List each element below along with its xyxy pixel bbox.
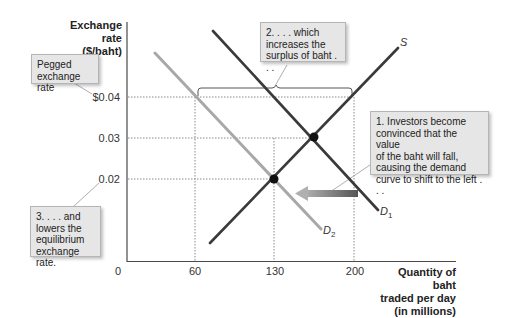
equilibrium-point-d1 bbox=[310, 133, 319, 142]
note3-line2: lowers the bbox=[36, 223, 95, 235]
x-axis-title-line2: traded per day bbox=[372, 292, 456, 305]
y-tick-0.03: 0.03 bbox=[80, 132, 120, 144]
x-tick-130: 130 bbox=[260, 265, 290, 277]
note3-line1: 3. . . . and bbox=[36, 211, 95, 223]
x-axis-title-line1: Quantity of baht bbox=[372, 266, 456, 292]
surplus-bracket bbox=[198, 85, 352, 96]
x-tick-200: 200 bbox=[340, 265, 370, 277]
note1-line1: 1. Investors become bbox=[376, 116, 483, 128]
x-tick-0: 0 bbox=[103, 265, 133, 277]
note2-line3: surplus of baht . . . bbox=[266, 50, 340, 73]
label-d1-letter: D bbox=[380, 205, 388, 217]
note-2-surplus: 2. . . . which increases the surplus of … bbox=[260, 22, 346, 62]
demand-curve-d2 bbox=[155, 53, 321, 229]
note1-line4: causing the demand bbox=[376, 162, 483, 174]
y-tick-0.02: 0.02 bbox=[80, 173, 120, 185]
x-axis-title-line3: (in millions) bbox=[372, 305, 456, 318]
note3-line4: exchange rate. bbox=[36, 246, 95, 269]
guide-lines bbox=[128, 97, 354, 261]
note2-line1: 2. . . . which bbox=[266, 27, 340, 39]
equilibrium-point-d2 bbox=[270, 175, 279, 184]
x-tick-60: 60 bbox=[180, 265, 210, 277]
y-axis-title-line1: Exchange bbox=[64, 19, 122, 32]
note-pegged-line1: Pegged bbox=[37, 59, 93, 71]
label-d2-letter: D bbox=[323, 224, 331, 236]
label-d2: D2 bbox=[323, 224, 335, 239]
note1-line3: of the baht will fall, bbox=[376, 151, 483, 163]
label-d1: D1 bbox=[380, 205, 392, 220]
note-pegged-exchange-rate: Pegged exchange rate bbox=[31, 54, 99, 84]
x-axis-title: Quantity of baht traded per day (in mill… bbox=[372, 266, 456, 318]
note1-line2: convinced that the value bbox=[376, 128, 483, 151]
shift-left-arrow bbox=[295, 186, 358, 201]
note2-line2: increases the bbox=[266, 39, 340, 51]
label-s: S bbox=[400, 36, 407, 48]
label-d2-sub: 2 bbox=[331, 230, 335, 239]
label-d1-sub: 1 bbox=[388, 211, 392, 220]
leader-note3 bbox=[74, 183, 99, 206]
note-pegged-line2: exchange rate bbox=[37, 71, 93, 94]
note-1-investors: 1. Investors become convinced that the v… bbox=[370, 111, 489, 175]
note1-line5: curve to shift to the left . . . bbox=[376, 174, 483, 197]
note-3-lowers-rate: 3. . . . and lowers the equilibrium exch… bbox=[30, 206, 101, 257]
note3-line3: equilibrium bbox=[36, 234, 95, 246]
y-axis-title: Exchange rate ($/baht) bbox=[64, 19, 122, 58]
